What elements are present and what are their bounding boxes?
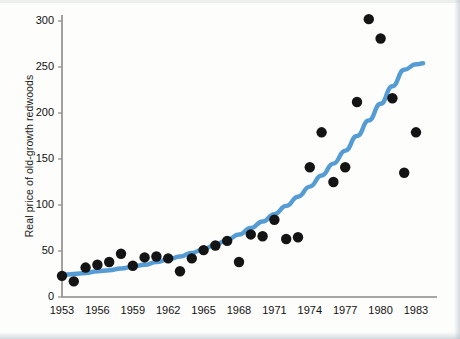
data-point: [293, 232, 303, 242]
data-point: [151, 251, 161, 261]
data-point: [139, 252, 149, 262]
data-points-group: [57, 14, 421, 287]
scatter-plot: [0, 0, 460, 339]
data-point: [116, 249, 126, 259]
data-point: [187, 253, 197, 263]
data-point: [257, 231, 267, 241]
data-point: [316, 127, 326, 137]
data-point: [269, 215, 279, 225]
data-point: [80, 262, 90, 272]
data-point: [104, 257, 114, 267]
trend-line-group: [62, 63, 423, 275]
y-tick-label: 50: [14, 244, 54, 256]
data-point: [364, 14, 374, 24]
trend-line: [62, 63, 423, 275]
y-tick-label: 150: [14, 152, 54, 164]
data-point: [305, 162, 315, 172]
data-point: [246, 229, 256, 239]
y-tick-label: 250: [14, 60, 54, 72]
data-point: [198, 245, 208, 255]
y-tick-label: 100: [14, 198, 54, 210]
data-point: [234, 257, 244, 267]
data-point: [69, 276, 79, 286]
data-point: [340, 162, 350, 172]
data-point: [352, 97, 362, 107]
data-point: [57, 271, 67, 281]
data-point: [222, 236, 232, 246]
y-tick-label: 0: [14, 290, 54, 302]
data-point: [175, 266, 185, 276]
data-point: [163, 253, 173, 263]
x-tick-label: 1983: [392, 304, 440, 316]
data-point: [387, 93, 397, 103]
data-point: [328, 177, 338, 187]
data-point: [375, 33, 385, 43]
data-point: [411, 127, 421, 137]
figure-screenshot: Real price of old-growth redwoods 050100…: [0, 0, 460, 339]
axis-lines: [58, 15, 437, 297]
y-tick-label: 200: [14, 106, 54, 118]
y-tick-label: 300: [14, 14, 54, 26]
data-point: [281, 234, 291, 244]
data-point: [399, 168, 409, 178]
data-point: [128, 261, 138, 271]
data-point: [92, 260, 102, 270]
data-point: [210, 240, 220, 250]
